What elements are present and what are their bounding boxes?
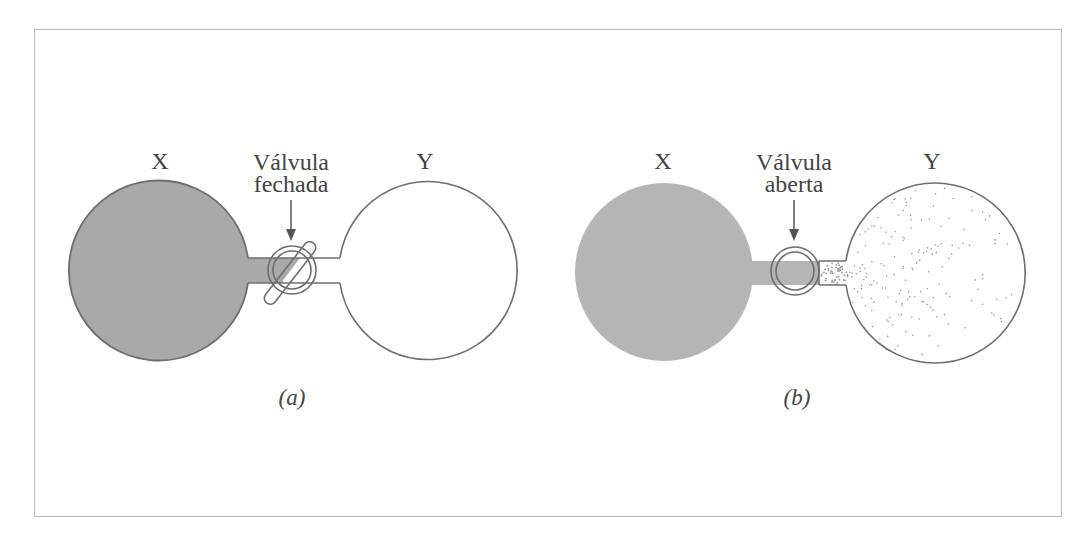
bulb-y-open: [846, 183, 1025, 363]
label-y-a: Y: [416, 148, 433, 174]
arrow-down-icon: [286, 200, 296, 241]
panel-b: X Y Válvula aberta (b): [575, 148, 1025, 410]
caption-a: (a): [279, 385, 306, 410]
label-x-a: X: [151, 148, 168, 174]
panel-a: X Y Válvula fechada (a): [69, 148, 517, 410]
label-y-b: Y: [923, 148, 940, 174]
neck-gas-b: [745, 261, 819, 285]
valve-label-a-line2: fechada: [254, 171, 329, 197]
bulb-x-open: [575, 183, 753, 361]
valve-label-b-line2: aberta: [765, 171, 824, 197]
gas-expansion-diagram: X Y Válvula fechada (a) X Y Válvula aber…: [0, 0, 1088, 542]
arrow-down-icon-b: [789, 200, 799, 241]
label-x-b: X: [654, 148, 671, 174]
caption-b: (b): [784, 385, 811, 410]
bulb-x-closed: [69, 181, 283, 361]
bulb-y-closed: [340, 181, 517, 359]
